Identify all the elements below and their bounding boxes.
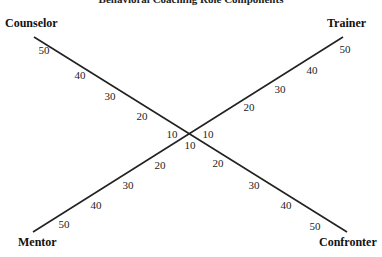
pole-mentor: Mentor [18, 235, 57, 250]
pole-counselor: Counselor [5, 16, 58, 31]
coaching-role-diagram: Behavioral Coaching Role Components Coun… [0, 0, 382, 257]
tick-center-10: 10 [185, 139, 196, 151]
tick-confronter-20: 20 [213, 157, 224, 169]
tick-mentor-40: 40 [91, 199, 102, 211]
tick-trainer-30: 30 [275, 83, 286, 95]
pole-confronter: Confronter [319, 235, 377, 250]
pole-trainer: Trainer [327, 16, 366, 31]
axes-lines [0, 0, 382, 257]
tick-mentor-30: 30 [123, 179, 134, 191]
tick-counselor-40: 40 [75, 69, 86, 81]
tick-trainer-40: 40 [307, 64, 318, 76]
tick-mentor-50: 50 [59, 218, 70, 230]
tick-mentor-20: 20 [155, 159, 166, 171]
tick-counselor-20: 20 [137, 110, 148, 122]
tick-trainer-50: 50 [340, 43, 351, 55]
tick-confronter-40: 40 [281, 199, 292, 211]
tick-counselor-50: 50 [39, 44, 50, 56]
tick-confronter-30: 30 [249, 179, 260, 191]
tick-trainer-20: 20 [244, 101, 255, 113]
tick-trainer-10: 10 [203, 128, 214, 140]
tick-confronter-50: 50 [310, 220, 321, 232]
tick-counselor-30: 30 [105, 90, 116, 102]
tick-counselor-10: 10 [167, 128, 178, 140]
